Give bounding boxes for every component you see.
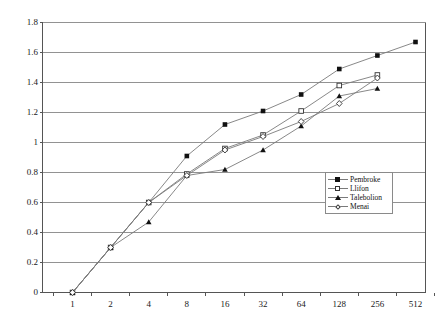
x-axis-tick-label: 64	[285, 299, 317, 309]
series-line	[73, 42, 416, 293]
legend-point-icon	[335, 177, 340, 182]
data-point-marker	[260, 147, 266, 152]
x-axis-tick-label: 4	[133, 299, 165, 309]
legend-item-label: Menai	[348, 202, 369, 211]
y-axis-tick-label: 1	[6, 137, 38, 147]
legend-item-menai[interactable]: Menai	[328, 202, 389, 211]
legend-item-pembroke[interactable]: Pembroke	[328, 175, 389, 184]
legend-point-shape	[335, 186, 340, 191]
legend-marker-icon	[328, 193, 348, 202]
data-point-marker	[299, 92, 304, 97]
data-point-marker	[375, 86, 381, 91]
y-axis-tick-label: 1.8	[6, 17, 38, 27]
legend-point-shape	[335, 177, 340, 182]
legend-item-talebolion[interactable]: Talebolion	[328, 193, 389, 202]
x-axis-tick-label: 256	[361, 299, 393, 309]
data-point-marker	[337, 67, 342, 72]
y-axis-tick-label: 0.8	[6, 167, 38, 177]
y-axis-tick-label: 1.2	[6, 107, 38, 117]
legend-marker-icon	[328, 184, 348, 193]
y-axis-tick-label: 0.4	[6, 227, 38, 237]
data-point-marker	[261, 109, 266, 114]
legend-point-shape	[335, 204, 341, 210]
x-axis-tick-label: 16	[209, 299, 241, 309]
legend-item-label: Llifon	[348, 184, 369, 193]
x-axis-tick-label: 2	[95, 299, 127, 309]
data-point-marker	[336, 101, 342, 107]
y-axis-tick-label: 0	[6, 287, 38, 297]
legend-item-llifon[interactable]: Llifon	[328, 184, 389, 193]
legend-point-icon	[335, 195, 341, 200]
y-axis-tick-label: 0.2	[6, 257, 38, 267]
x-axis-tick-label: 1	[57, 299, 89, 309]
x-axis-tick-label: 8	[171, 299, 203, 309]
data-point-marker	[185, 154, 190, 159]
y-axis-tick-label: 0.6	[6, 197, 38, 207]
data-point-marker	[375, 53, 380, 58]
x-axis-tick-label: 128	[323, 299, 355, 309]
data-point-marker	[299, 109, 304, 114]
data-point-marker	[223, 122, 228, 127]
legend-point-icon	[335, 186, 340, 191]
data-point-marker	[298, 119, 304, 125]
legend-item-label: Pembroke	[348, 175, 380, 184]
data-point-marker	[413, 40, 418, 45]
data-point-marker	[222, 167, 228, 172]
x-axis-tick-label: 32	[247, 299, 279, 309]
legend-marker-icon	[328, 202, 348, 211]
chart-legend: PembrokeLlifonTalebolionMenai	[325, 172, 393, 214]
x-axis-tick-label: 512	[400, 299, 432, 309]
data-point-marker	[337, 83, 342, 88]
chart-plot-area	[0, 0, 439, 322]
legend-marker-icon	[328, 175, 348, 184]
legend-item-label: Talebolion	[348, 193, 382, 202]
line-chart: 00.20.40.60.811.21.41.61.8 1248163264128…	[0, 0, 439, 322]
y-axis-tick-label: 1.6	[6, 47, 38, 57]
y-axis-tick-label: 1.4	[6, 77, 38, 87]
legend-point-icon	[335, 204, 340, 209]
legend-point-shape	[335, 195, 341, 200]
